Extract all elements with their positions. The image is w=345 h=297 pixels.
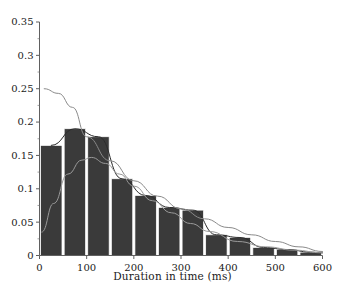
histogram-bar [253, 247, 274, 255]
y-tick-labels: 00.050.10.150.20.250.30.35 [11, 16, 33, 261]
histogram-bars [41, 129, 322, 256]
histogram-bar [88, 137, 109, 256]
y-tick-label: 0.1 [18, 183, 34, 194]
y-tick-label: 0.15 [11, 150, 33, 161]
histogram-bar [135, 195, 156, 255]
y-tick-label: 0 [27, 250, 33, 261]
x-axis-label: Duration in time (ms) [0, 270, 345, 282]
y-tick-label: 0.05 [11, 217, 33, 228]
y-tick-label: 0.35 [11, 16, 33, 27]
histogram-bar [41, 145, 62, 255]
y-tick-label: 0.3 [18, 50, 34, 61]
histogram-bar [206, 235, 227, 256]
histogram-bar [111, 179, 132, 256]
histogram-chart: 0100200300400500600 00.050.10.150.20.250… [0, 0, 345, 297]
y-tick-label: 0.25 [11, 83, 33, 94]
y-tick-label: 0.2 [18, 116, 34, 127]
histogram-bar [64, 129, 85, 256]
figure-container: 0100200300400500600 00.050.10.150.20.250… [0, 0, 345, 297]
histogram-bar [229, 237, 250, 255]
histogram-bar [182, 210, 203, 255]
